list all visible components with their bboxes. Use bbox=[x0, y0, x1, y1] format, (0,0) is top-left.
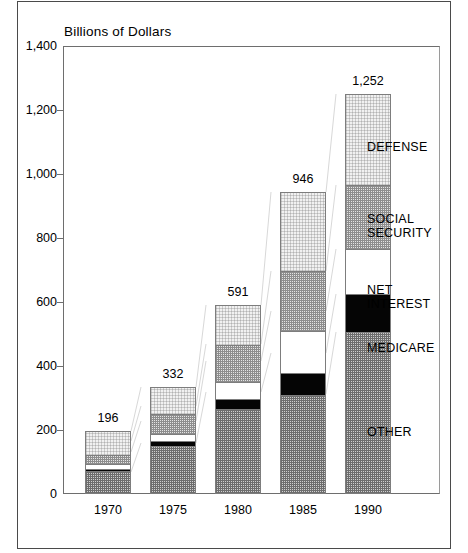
bar-1970-segment-defense[interactable] bbox=[85, 431, 131, 455]
bar-1985-segment-defense[interactable] bbox=[280, 192, 326, 271]
y-tick-label-1400: 1,400 bbox=[26, 39, 57, 53]
bar-total-label-1970: 196 bbox=[68, 411, 148, 425]
y-axis: 1,400 1,200 1,000 800 600 400 200 0 bbox=[0, 0, 57, 553]
bar-1975[interactable] bbox=[150, 387, 196, 494]
y-tick-mark-200 bbox=[57, 430, 63, 431]
bar-total-label-1975: 332 bbox=[133, 367, 213, 381]
bar-total-label-1985: 946 bbox=[263, 172, 343, 186]
legend-label-medicare: MEDICARE bbox=[367, 341, 435, 355]
legend-label-social-security: SOCIAL SECURITY bbox=[367, 212, 432, 240]
y-tick-label-200: 200 bbox=[36, 423, 57, 437]
bar-1975-segment-net-interest[interactable] bbox=[150, 434, 196, 441]
y-tick-label-800: 800 bbox=[36, 231, 57, 245]
bar-1985-segment-social-security[interactable] bbox=[280, 271, 326, 331]
legend-label-other: OTHER bbox=[367, 425, 412, 439]
bar-1985-segment-net-interest[interactable] bbox=[280, 331, 326, 373]
bar-1980[interactable] bbox=[215, 305, 261, 494]
y-tick-label-1200: 1,200 bbox=[26, 103, 57, 117]
bar-1975-segment-social-security[interactable] bbox=[150, 414, 196, 434]
y-tick-label-400: 400 bbox=[36, 359, 57, 373]
legend-label-net-interest: NET INTEREST bbox=[367, 283, 430, 311]
bar-1980-segment-other[interactable] bbox=[215, 409, 261, 494]
y-tick-mark-1000 bbox=[57, 174, 63, 175]
y-tick-mark-1200 bbox=[57, 110, 63, 111]
bar-1975-segment-defense[interactable] bbox=[150, 387, 196, 414]
y-tick-label-0: 0 bbox=[50, 487, 57, 501]
y-tick-label-600: 600 bbox=[36, 295, 57, 309]
y-tick-mark-800 bbox=[57, 238, 63, 239]
legend-label-defense: DEFENSE bbox=[367, 140, 427, 154]
bar-1980-segment-defense[interactable] bbox=[215, 305, 261, 345]
x-tick-label-1990: 1990 bbox=[328, 503, 408, 517]
y-tick-mark-400 bbox=[57, 366, 63, 367]
bar-total-label-1980: 591 bbox=[198, 285, 278, 299]
stacked-bar-chart: Billions of Dollars 1,400 1,200 1,000 80… bbox=[0, 0, 468, 553]
chart-title: Billions of Dollars bbox=[64, 24, 171, 39]
bar-1970-segment-social-security[interactable] bbox=[85, 455, 131, 464]
y-tick-label-1000: 1,000 bbox=[26, 167, 57, 181]
bar-1980-segment-social-security[interactable] bbox=[215, 345, 261, 382]
bar-1985-segment-medicare[interactable] bbox=[280, 373, 326, 395]
bar-1985-segment-other[interactable] bbox=[280, 395, 326, 494]
y-tick-mark-600 bbox=[57, 302, 63, 303]
bar-1970[interactable] bbox=[85, 431, 131, 494]
bar-1990-segment-other[interactable] bbox=[345, 332, 391, 494]
bar-1985[interactable] bbox=[280, 192, 326, 494]
bar-total-label-1990: 1,252 bbox=[328, 74, 408, 88]
bar-1980-segment-medicare[interactable] bbox=[215, 399, 261, 409]
bar-1975-segment-other[interactable] bbox=[150, 446, 196, 494]
bar-1970-segment-other[interactable] bbox=[85, 471, 131, 494]
bar-1980-segment-net-interest[interactable] bbox=[215, 382, 261, 399]
